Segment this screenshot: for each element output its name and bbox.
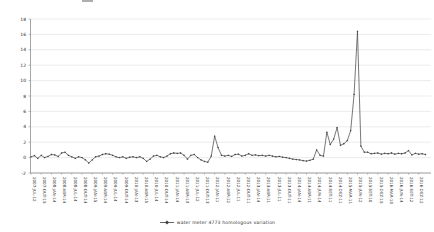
x-axis-tick-label: 2011-JAN-14 bbox=[175, 177, 180, 203]
x-axis-tick-label: 2011-OUT-13 bbox=[205, 177, 210, 204]
data-point-marker bbox=[384, 152, 386, 154]
data-point-marker bbox=[377, 152, 379, 154]
x-axis-tick-label: 2009-OUT-14 bbox=[124, 177, 129, 204]
data-point-marker bbox=[421, 153, 423, 155]
x-axis-tick-label: 2015-SET-10 bbox=[368, 177, 373, 203]
data-point-marker bbox=[268, 154, 270, 156]
x-axis-tick-label: 2016-JUN-14 bbox=[399, 177, 404, 203]
x-axis-tick-label: 2016-DEZ-12 bbox=[419, 177, 424, 204]
x-axis-tick-label: 2013-OUT-11 bbox=[287, 177, 292, 204]
data-point-marker bbox=[261, 154, 263, 156]
data-point-marker bbox=[391, 152, 393, 154]
legend-series-label: water meter 4773 homologous variation bbox=[177, 220, 275, 225]
x-axis-tick-label: 2008-JUL-14 bbox=[73, 177, 78, 202]
x-axis-tick-label: 2010-ABR-15 bbox=[144, 177, 149, 204]
line-chart-plot-area: -20246810121416182007-JUL-122007-OUT-152… bbox=[0, 0, 434, 232]
x-axis-tick-label: 2015-JUN-12 bbox=[358, 177, 363, 203]
x-axis-tick-label: 2014-SET-11 bbox=[328, 177, 333, 203]
x-axis-tick-label: 2014-ABR-11 bbox=[307, 177, 312, 204]
x-axis-tick-label: 2009-JUL-14 bbox=[113, 177, 118, 202]
data-point-marker bbox=[401, 153, 403, 155]
data-point-marker bbox=[323, 155, 325, 157]
y-axis-tick-label: -2 bbox=[22, 171, 27, 176]
data-point-marker bbox=[292, 158, 294, 160]
data-point-marker bbox=[374, 152, 376, 154]
x-axis-tick-label: 2013-ABR-11 bbox=[266, 177, 271, 204]
x-axis-tick-label: 2008-OUT-14 bbox=[83, 177, 88, 204]
chart-legend: water meter 4773 homologous variation bbox=[0, 219, 434, 226]
x-axis-tick-label: 2008-ABR-14 bbox=[62, 177, 67, 204]
data-point-marker bbox=[299, 159, 301, 161]
y-axis-tick-label: 4 bbox=[23, 124, 26, 129]
data-point-marker bbox=[105, 153, 107, 155]
x-axis-tick-label: 2014-JUN-14 bbox=[317, 177, 322, 203]
x-axis-tick-label: 2010-JAN-13 bbox=[134, 177, 139, 203]
x-axis-tick-label: 2015-DEZ-15 bbox=[379, 177, 384, 204]
x-axis-tick-label: 2016-SET-12 bbox=[409, 177, 414, 203]
data-point-marker bbox=[108, 153, 110, 155]
data-point-marker bbox=[265, 155, 267, 157]
data-point-marker bbox=[380, 153, 382, 155]
x-axis-tick-label: 2013-JUL-11 bbox=[277, 177, 282, 202]
data-point-marker bbox=[173, 152, 175, 154]
data-point-marker bbox=[353, 94, 355, 96]
x-axis-tick-label: 2008-JAN-14 bbox=[52, 177, 57, 203]
x-axis-tick-label: 2009-ABR-14 bbox=[103, 177, 108, 204]
data-point-marker bbox=[394, 153, 396, 155]
data-point-marker bbox=[224, 155, 226, 157]
x-axis-tick-label: 2011-ABR-13 bbox=[185, 177, 190, 204]
data-point-marker bbox=[357, 30, 359, 32]
y-axis-tick-label: 2 bbox=[23, 140, 26, 145]
y-axis-tick-label: 0 bbox=[23, 155, 26, 160]
x-axis-tick-label: 2012-JUL-11 bbox=[236, 177, 241, 202]
x-axis-tick-label: 2009-JAN-15 bbox=[93, 177, 98, 203]
data-point-marker bbox=[278, 156, 280, 158]
x-axis-tick-label: 2011-JUL-12 bbox=[195, 177, 200, 202]
data-point-marker bbox=[425, 154, 427, 156]
x-axis-tick-label: 2012-OUT-11 bbox=[246, 177, 251, 204]
x-axis-tick-label: 2007-JUL-12 bbox=[32, 177, 37, 202]
data-point-marker bbox=[272, 155, 274, 157]
data-point-marker bbox=[350, 130, 352, 132]
x-axis-tick-label: 2015-MAR-11 bbox=[348, 177, 353, 204]
x-axis-tick-label: 2012-JAN-11 bbox=[215, 177, 220, 203]
data-point-marker bbox=[285, 157, 287, 159]
data-point-marker bbox=[258, 155, 260, 157]
data-point-marker bbox=[397, 152, 399, 154]
data-point-marker bbox=[326, 131, 328, 133]
data-point-marker bbox=[387, 153, 389, 155]
x-axis-tick-label: 2013-JAN-14 bbox=[256, 177, 261, 203]
x-axis-tick-label: 2010-JUL-14 bbox=[154, 177, 159, 202]
y-axis-tick-label: 12 bbox=[20, 63, 26, 68]
y-axis-tick-label: 16 bbox=[20, 32, 26, 37]
data-point-marker bbox=[176, 152, 178, 154]
data-point-marker bbox=[312, 158, 314, 160]
y-axis-tick-label: 14 bbox=[20, 47, 26, 52]
y-axis-tick-label: 10 bbox=[20, 78, 26, 83]
x-axis-tick-label: 2016-MAR-10 bbox=[389, 177, 394, 204]
data-point-marker bbox=[302, 160, 304, 162]
data-point-marker bbox=[418, 153, 420, 155]
x-axis-tick-label: 2012-ABR-12 bbox=[226, 177, 231, 204]
data-point-marker bbox=[214, 135, 216, 137]
series-line bbox=[31, 31, 426, 163]
y-axis-tick-label: 18 bbox=[20, 17, 26, 22]
data-point-marker bbox=[255, 154, 257, 156]
chart-window: -20246810121416182007-JUL-122007-OUT-152… bbox=[0, 0, 434, 232]
data-point-marker bbox=[309, 159, 311, 161]
x-axis-tick-label: 2010-OUT-14 bbox=[164, 177, 169, 204]
x-axis-tick-label: 2014-JAN-14 bbox=[297, 177, 302, 203]
y-axis-tick-label: 8 bbox=[23, 94, 26, 99]
data-point-marker bbox=[227, 154, 229, 156]
data-point-marker bbox=[136, 157, 138, 159]
data-point-marker bbox=[119, 157, 121, 159]
data-point-marker bbox=[295, 159, 297, 161]
data-point-marker bbox=[306, 160, 308, 162]
x-axis-tick-label: 2014-DEZ-11 bbox=[338, 177, 343, 204]
y-axis-tick-label: 6 bbox=[23, 109, 26, 114]
legend-marker-icon bbox=[159, 219, 175, 226]
x-axis-tick-label: 2007-OUT-15 bbox=[42, 177, 47, 204]
